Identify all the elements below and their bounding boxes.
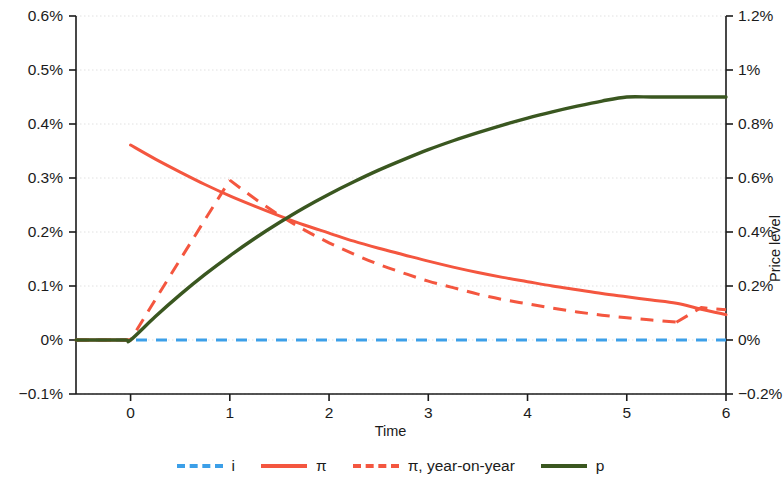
y-right-tick-6: 1% [738,62,760,78]
series-line-pi_yoy [76,180,726,340]
y-left-tick-7: 0.6% [0,8,63,24]
legend-swatch-icon-0 [177,464,223,468]
x-axis-title: Time [0,424,781,439]
y-left-tick-1: 0% [0,332,63,348]
y-left-tick-4: 0.3% [0,170,63,186]
legend-label-1: π [316,458,327,474]
series-line-p [76,97,726,342]
y-left-tick-0: −0.1% [0,386,63,402]
x-tick-2: 2 [304,405,354,421]
y-left-tick-3: 0.2% [0,224,63,240]
y-right-tick-7: 1.2% [738,8,773,24]
series-line-pi [76,145,726,340]
legend-item-1[interactable]: π [261,458,327,474]
y-left-tick-5: 0.4% [0,116,63,132]
legend-label-3: p [596,458,605,474]
legend-swatch-icon-3 [541,464,587,468]
legend-item-3[interactable]: p [541,458,605,474]
y-right-tick-0: −0.2% [738,386,782,402]
y-left-tick-2: 0.1% [0,278,63,294]
legend-item-2[interactable]: π, year-on-year [353,458,515,474]
x-tick-4: 4 [503,405,553,421]
x-tick-6: 6 [701,405,751,421]
legend-label-0: i [232,458,235,474]
gridlines [76,16,726,394]
y-left-tick-6: 0.5% [0,62,63,78]
y-right-tick-4: 0.6% [738,170,773,186]
legend-swatch-icon-2 [353,464,399,468]
legend-swatch-icon-1 [261,464,307,468]
legend-label-2: π, year-on-year [408,458,515,474]
axis-ticks [69,16,733,401]
x-tick-0: 0 [106,405,156,421]
y-axis-right-title: Price level [768,215,783,282]
data-series [76,97,726,342]
x-tick-3: 3 [403,405,453,421]
axis-lines [76,16,726,394]
x-tick-5: 5 [602,405,652,421]
y-right-tick-5: 0.8% [738,116,773,132]
chart-legend: iππ, year-on-yearp [0,452,781,480]
y-right-tick-1: 0% [738,332,760,348]
legend-item-0[interactable]: i [177,458,235,474]
x-tick-1: 1 [205,405,255,421]
